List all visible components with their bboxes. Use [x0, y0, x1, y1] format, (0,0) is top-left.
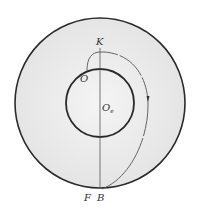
orbit-diagram: K O Oe F B: [0, 0, 198, 213]
label-o: O: [80, 73, 88, 84]
label-k: K: [95, 36, 104, 47]
label-f: F: [83, 192, 92, 203]
label-b: B: [96, 192, 104, 203]
